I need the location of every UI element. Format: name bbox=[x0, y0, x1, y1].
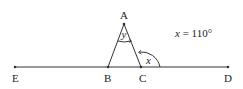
label-a: A bbox=[120, 9, 128, 21]
angle-arc-y bbox=[118, 41, 131, 42]
label-d: D bbox=[224, 72, 232, 84]
point-d bbox=[227, 66, 230, 69]
point-a bbox=[123, 23, 126, 26]
given-equation: x = 110° bbox=[174, 27, 212, 39]
geometry-diagram: A B C D E y x x = 110° bbox=[0, 0, 243, 89]
angle-label-x: x bbox=[145, 54, 151, 66]
label-c: C bbox=[139, 72, 146, 84]
point-e bbox=[14, 66, 17, 69]
side-ac bbox=[124, 24, 141, 67]
given-value: = 110° bbox=[180, 27, 212, 39]
point-c bbox=[140, 66, 143, 69]
angle-label-y: y bbox=[121, 28, 127, 40]
point-b bbox=[107, 66, 110, 69]
label-b: B bbox=[104, 72, 111, 84]
label-e: E bbox=[12, 72, 19, 84]
